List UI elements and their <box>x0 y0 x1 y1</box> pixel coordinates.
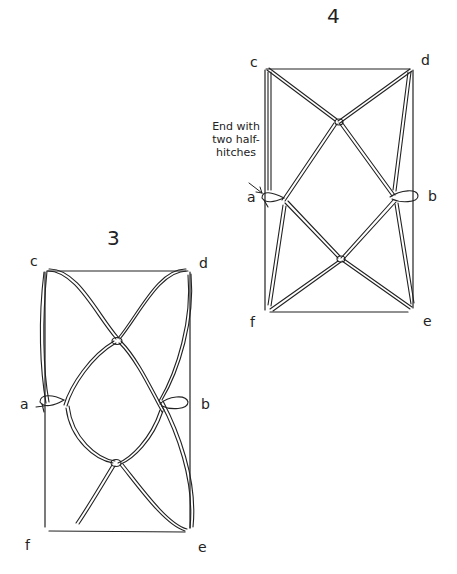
figure-3-corner-f: f <box>25 538 30 552</box>
figure-4-corner-e: e <box>423 314 432 328</box>
figure-3-number: 3 <box>107 228 120 248</box>
figure-3-corner-d: d <box>199 256 208 270</box>
figure-4-corner-c: c <box>250 55 258 69</box>
half-hitches-annotation: End with two half- hitches <box>196 120 276 159</box>
figure-3-frame <box>45 271 190 532</box>
figure-3-corner-a: a <box>20 397 29 411</box>
figure-4-frame <box>265 69 413 312</box>
figure-4-number: 4 <box>327 6 340 26</box>
lashing-diagram <box>0 0 457 574</box>
figure-4-corner-b: b <box>428 189 437 203</box>
annotation-line-3: hitches <box>196 146 276 159</box>
figure-3-corner-b: b <box>201 397 210 411</box>
annotation-line-2: two half- <box>196 133 276 146</box>
figure-4-rope <box>262 68 418 311</box>
figure-4-corner-a: a <box>247 190 256 204</box>
figure-4-corner-d: d <box>421 53 430 67</box>
figure-3-corner-c: c <box>30 254 38 268</box>
figure-4-corner-f: f <box>250 315 255 329</box>
figure-3-rope <box>36 269 194 531</box>
annotation-line-1: End with <box>196 120 276 133</box>
figure-3-corner-e: e <box>198 540 207 554</box>
